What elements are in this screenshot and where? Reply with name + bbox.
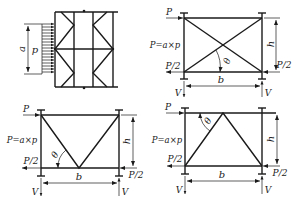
panel-braced-frame-distributed-load: a p (16, 10, 118, 90)
label-P: P (22, 104, 30, 114)
label-p: p (32, 44, 39, 55)
label-theta: θ (221, 56, 232, 65)
label-P2-left: P/2 (167, 154, 183, 164)
panel-inverted-v-braced-frame: θ P P=a×p P/2 P/2 h b V V (151, 102, 288, 195)
label-V-right: V (265, 185, 273, 195)
label-total-load: P=a×p (6, 135, 38, 145)
label-b: b (218, 74, 224, 85)
label-P: P (164, 102, 172, 112)
hinge-top (83, 10, 86, 13)
label-V-right: V (265, 88, 273, 98)
label-V-left: V (32, 187, 40, 197)
brace-inverted-v (185, 113, 262, 166)
panel-v-braced-frame: θ P P=a×p P/2 P/2 h b V V (6, 104, 144, 197)
label-b: b (219, 169, 225, 180)
label-h: h (265, 41, 276, 47)
label-P2-right: P/2 (128, 170, 144, 180)
angle-arc (58, 150, 66, 168)
angle-arc (216, 50, 220, 72)
label-theta: θ (49, 150, 61, 160)
label-total-load: P=a×p (151, 135, 183, 145)
label-a: a (16, 46, 27, 52)
braced-frame-diagram: a p θ P P=a×p P/2 P/2 h b V V (0, 0, 296, 204)
label-P: P (165, 7, 173, 17)
label-P2-left: P/2 (165, 61, 181, 71)
label-theta: θ (202, 116, 214, 126)
label-P2-left: P/2 (23, 156, 39, 166)
panel-x-braced-frame: θ P P=a×p P/2 P/2 h b V V (149, 7, 292, 98)
label-b: b (76, 171, 82, 182)
label-h: h (265, 136, 276, 142)
label-V-right: V (122, 187, 130, 197)
label-V-left: V (175, 88, 183, 98)
distributed-load-arrows (42, 24, 54, 74)
label-V-left: V (176, 185, 184, 195)
label-total-load: P=a×p (149, 40, 181, 50)
label-h: h (121, 138, 132, 144)
label-P2-right: P/2 (276, 60, 292, 70)
label-P2-right: P/2 (272, 168, 288, 178)
brace-v (41, 115, 119, 168)
hinge-bottom (83, 87, 86, 90)
